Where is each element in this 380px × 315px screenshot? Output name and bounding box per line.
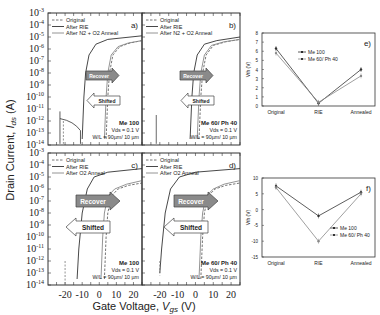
x-tick-label: -20: [58, 289, 71, 300]
y-axis-label: Vth (V): [245, 61, 251, 77]
shifted-label: Shifted: [180, 224, 202, 231]
annotation: Me 60/ Ph 40: [201, 260, 238, 266]
y-tick-label: 2: [255, 86, 258, 91]
y-tick-label: 10-10: [26, 231, 44, 242]
x-axis-label: Gate Voltage, Vgs (V): [92, 300, 195, 314]
annotation: W/L = 90µm/ 10 µm: [191, 274, 238, 280]
y-tick-label: 10-12: [26, 255, 44, 266]
y-tick-label: -5: [254, 223, 258, 228]
x-category-label: Original: [267, 260, 284, 266]
annotation: Vds = 0.1 V: [111, 267, 139, 273]
panel-label: e): [364, 39, 371, 48]
shifted-label: Shifted: [193, 98, 210, 104]
panel-b: OriginalAfter RIEAfter N2 + O2 Annealb)M…: [142, 13, 240, 145]
x-category-label: Annealed: [350, 109, 371, 115]
y-tick-label: 10-4: [29, 159, 44, 170]
y-tick-label: 10-5: [29, 31, 44, 42]
y-tick-label: 5: [255, 58, 258, 63]
y-tick-label: 10-3: [29, 147, 44, 158]
annotation: Me 60/ Ph 40: [201, 120, 238, 126]
annotation: Vds = 0.1 V: [209, 267, 237, 273]
y-tick-label: 0: [255, 208, 258, 213]
legend-item: Original: [66, 17, 85, 23]
legend-item: After O2 Anneal: [160, 170, 199, 176]
legend-item: After RIE: [66, 164, 89, 170]
y-tick-label: 3: [255, 77, 258, 82]
x-category-label: RIE: [314, 109, 323, 115]
legend-item: Me 60/ Ph 40: [308, 56, 338, 62]
y-tick-label: 0: [255, 104, 258, 109]
shifted-label: Shifted: [99, 98, 116, 104]
y-tick-label: 8: [255, 31, 258, 36]
legend-item: After O2 Anneal: [66, 170, 105, 176]
y-tick-label: 10-7: [29, 55, 44, 66]
panel-a: OriginalAfter RIEAfter N2 + O2 Anneala)M…: [48, 13, 142, 145]
x-tick-label: 0: [193, 289, 198, 300]
panel-label: d): [229, 161, 236, 170]
y-tick-label: -15: [251, 255, 258, 260]
x-tick-label: -10: [171, 289, 184, 300]
annotation: W/L = 90µm/ 10 µm: [93, 274, 140, 280]
x-tick-label: 0: [97, 289, 102, 300]
y-tick-label: 10-13: [26, 267, 44, 278]
y-tick-label: 7: [255, 40, 258, 45]
y-tick-label: 10-5: [29, 171, 44, 182]
x-tick-label: 20: [128, 289, 138, 300]
recover-label: Recover: [80, 198, 106, 205]
y-tick-label: -10: [251, 239, 258, 244]
legend-item: After N2 + O2 Anneal: [160, 30, 212, 36]
y-tick-label: 10-14: [26, 279, 44, 290]
x-tick-label: 10: [111, 289, 121, 300]
y-tick-label: 10-3: [29, 7, 44, 18]
x-tick-label: 10: [208, 289, 218, 300]
legend-item: Me 60/ Ph 40: [340, 232, 370, 238]
y-tick-label: 10-7: [29, 195, 44, 206]
annotation: Vds = 0.1 V: [111, 127, 139, 133]
y-tick-label: 5: [255, 192, 258, 197]
shifted-label: Shifted: [82, 224, 104, 231]
panel-label: a): [131, 21, 138, 30]
y-axis-label: Vth (V): [245, 209, 251, 225]
y-tick-label: 10-8: [29, 67, 44, 78]
x-tick-label: -10: [76, 289, 89, 300]
panel-label: f): [366, 184, 371, 193]
y-tick-label: 10-6: [29, 183, 44, 194]
y-tick-label: 10-11: [26, 243, 44, 254]
legend-item: Me 100: [308, 49, 325, 55]
annotation: W/L = 90µm/ 10 µm: [93, 134, 140, 140]
panel-label: b): [229, 21, 236, 30]
y-tick-label: 1: [255, 95, 258, 100]
panel-c: OriginalAfter RIEAfter O2 Annealc)Me 100…: [48, 153, 142, 300]
x-category-label: Original: [267, 109, 284, 115]
y-tick-label: 10-4: [29, 19, 44, 30]
legend-item: Original: [160, 157, 179, 163]
recover-label: Recover: [89, 73, 109, 79]
y-tick-label: 10-6: [29, 43, 44, 54]
annotation: W/L = 90µm/ 10 µm: [191, 134, 238, 140]
x-tick-label: 20: [226, 289, 236, 300]
y-axis-label: Drain Current, Ids (A): [4, 99, 18, 200]
y-tick-label: 10-10: [26, 91, 44, 102]
annotation: Me 100: [119, 120, 140, 126]
legend-item: After RIE: [66, 24, 89, 30]
vth-series-0: [276, 186, 361, 216]
y-tick-label: 10-11: [26, 103, 44, 114]
legend-item: Original: [66, 157, 85, 163]
y-tick-label: 10-9: [29, 79, 44, 90]
legend-item: After N2 + O2 Anneal: [66, 30, 118, 36]
y-tick-label: 10-8: [29, 207, 44, 218]
panel-f: 1050-5-10-15OriginalRIEAnnealedVth (V)Me…: [245, 176, 375, 266]
y-tick-label: 10-13: [26, 127, 44, 138]
x-category-label: Annealed: [350, 260, 371, 266]
x-tick-label: -20: [153, 289, 166, 300]
legend-item: After RIE: [160, 24, 183, 30]
y-tick-label: 4: [255, 68, 258, 73]
panel-d: OriginalAfter RIEAfter O2 Anneald)Me 60/…: [142, 153, 240, 300]
figure: 10-310-410-510-610-710-810-910-1010-1110…: [0, 0, 380, 315]
legend-item: After RIE: [160, 164, 183, 170]
y-tick-label: 10: [253, 176, 259, 181]
recover-label: Recover: [178, 198, 204, 205]
x-category-label: RIE: [314, 260, 323, 266]
recover-label: Recover: [183, 73, 203, 79]
y-tick-label: 6: [255, 49, 258, 54]
